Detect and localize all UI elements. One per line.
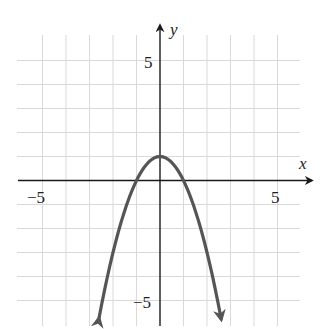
x-tick-label-neg5: −5 [27, 188, 45, 207]
y-tick-label-neg5: −5 [133, 293, 151, 312]
x-tick-label-5: 5 [271, 188, 280, 207]
y-axis-label: y [168, 20, 178, 39]
parabola-chart: x y −5 5 5 −5 [0, 0, 327, 329]
y-tick-label-5: 5 [144, 53, 153, 72]
x-axis-label: x [298, 154, 307, 173]
